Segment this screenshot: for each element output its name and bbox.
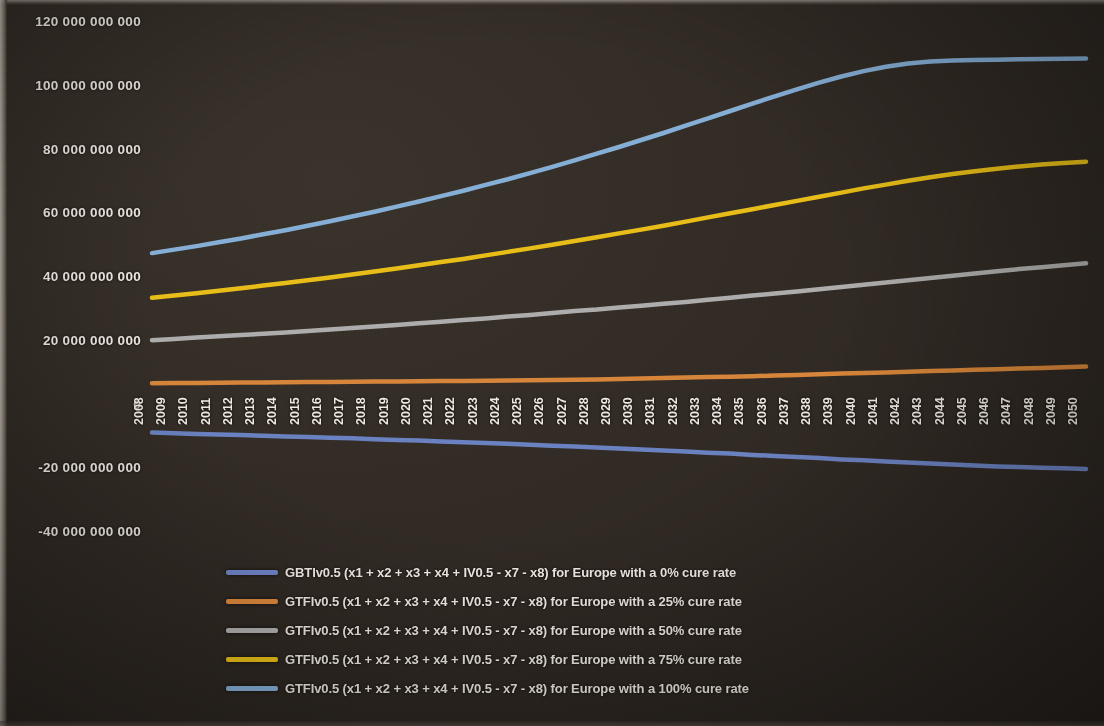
x-axis-tick-label: 2024 — [488, 397, 502, 425]
x-axis-tick-label: 2010 — [176, 397, 190, 425]
y-axis-tick-label: 120 000 000 000 — [35, 14, 141, 29]
legend-item-label: GTFIv0.5 (x1 + x2 + x3 + x4 + IV0.5 - x7… — [285, 623, 742, 638]
x-axis-tick-label: 2016 — [310, 397, 324, 425]
x-axis-tick-label: 2025 — [510, 397, 524, 425]
x-axis-tick-label: 2026 — [532, 397, 546, 425]
chart-series-line — [152, 58, 1086, 253]
chart-photo-backdrop: 120 000 000 000100 000 000 00080 000 000… — [0, 0, 1104, 726]
y-axis-tick-label: 40 000 000 000 — [43, 269, 141, 284]
x-axis-tick-label: 2027 — [555, 397, 569, 425]
legend-color-swatch — [226, 599, 278, 604]
chart-series-line — [152, 263, 1086, 340]
x-axis-tick-label: 2041 — [866, 397, 880, 425]
x-axis-tick-label: 2013 — [243, 397, 257, 425]
x-axis-tick-label: 2032 — [666, 397, 680, 425]
x-axis-tick-label: 2012 — [221, 397, 235, 425]
legend-item[interactable]: GTFIv0.5 (x1 + x2 + x3 + x4 + IV0.5 - x7… — [226, 587, 986, 616]
x-axis-tick-label: 2047 — [999, 397, 1013, 425]
x-axis-tick-label: 2009 — [154, 397, 168, 425]
x-axis-tick-label: 2048 — [1022, 397, 1036, 425]
x-axis-tick-label: 2040 — [844, 397, 858, 425]
chart-legend: GBTIv0.5 (x1 + x2 + x3 + x4 + IV0.5 - x7… — [226, 558, 986, 703]
x-axis-tick-label: 2019 — [377, 397, 391, 425]
x-axis-tick-label: 2015 — [288, 397, 302, 425]
legend-item[interactable]: GTFIv0.5 (x1 + x2 + x3 + x4 + IV0.5 - x7… — [226, 645, 986, 674]
x-axis-tick-label: 2036 — [755, 397, 769, 425]
x-axis-tick-label: 2023 — [466, 397, 480, 425]
chart-series-line — [152, 367, 1086, 384]
x-axis-tick-label: 2038 — [799, 397, 813, 425]
x-axis-tick-label: 2021 — [421, 397, 435, 425]
legend-item-label: GTFIv0.5 (x1 + x2 + x3 + x4 + IV0.5 - x7… — [285, 594, 742, 609]
y-axis-tick-label: 100 000 000 000 — [35, 78, 141, 93]
line-chart: 120 000 000 000100 000 000 00080 000 000… — [0, 0, 1104, 726]
legend-item-label: GTFIv0.5 (x1 + x2 + x3 + x4 + IV0.5 - x7… — [285, 681, 749, 696]
x-axis-tick-label: 2028 — [577, 397, 591, 425]
legend-color-swatch — [226, 628, 278, 633]
y-axis-tick-label: 20 000 000 000 — [43, 333, 141, 348]
legend-color-swatch — [226, 686, 278, 691]
y-axis-tick-label: -40 000 000 000 — [38, 524, 141, 539]
x-axis-tick-label: 2043 — [910, 397, 924, 425]
legend-item-label: GTFIv0.5 (x1 + x2 + x3 + x4 + IV0.5 - x7… — [285, 652, 742, 667]
x-axis-tick-label: 2046 — [977, 397, 991, 425]
x-axis-tick-label: 2050 — [1066, 397, 1080, 425]
legend-color-swatch — [226, 657, 278, 662]
legend-item[interactable]: GTFIv0.5 (x1 + x2 + x3 + x4 + IV0.5 - x7… — [226, 616, 986, 645]
x-axis-tick-label: 2014 — [265, 397, 279, 425]
x-axis-tick-label: 2037 — [777, 397, 791, 425]
x-axis-tick-label: 2045 — [955, 397, 969, 425]
legend-item[interactable]: GTFIv0.5 (x1 + x2 + x3 + x4 + IV0.5 - x7… — [226, 674, 986, 703]
x-axis-tick-label: 2042 — [888, 397, 902, 425]
x-axis-tick-label: 2031 — [643, 397, 657, 425]
x-axis-tick-label: 2033 — [688, 397, 702, 425]
x-axis-tick-label: 2018 — [354, 397, 368, 425]
chart-series-line — [152, 433, 1086, 469]
x-axis-tick-label: 2017 — [332, 397, 346, 425]
x-axis-tick-label: 2029 — [599, 397, 613, 425]
x-axis-tick-label: 2034 — [710, 397, 724, 425]
legend-item[interactable]: GBTIv0.5 (x1 + x2 + x3 + x4 + IV0.5 - x7… — [226, 558, 986, 587]
y-axis-tick-label: 60 000 000 000 — [43, 205, 141, 220]
y-axis-tick-label: -20 000 000 000 — [38, 460, 141, 475]
legend-color-swatch — [226, 570, 278, 575]
x-axis-tick-label: 2035 — [732, 397, 746, 425]
x-axis-tick-label: 2044 — [933, 397, 947, 425]
y-axis-tick-label: 80 000 000 000 — [43, 142, 141, 157]
x-axis-tick-label: 2008 — [132, 397, 146, 425]
x-axis-tick-label: 2011 — [199, 397, 213, 424]
x-axis-tick-label: 2030 — [621, 397, 635, 425]
x-axis-tick-label: 2049 — [1044, 397, 1058, 425]
x-axis-tick-label: 2039 — [821, 397, 835, 425]
x-axis-tick-label: 2022 — [443, 397, 457, 425]
x-axis-tick-label: 2020 — [399, 397, 413, 425]
legend-item-label: GBTIv0.5 (x1 + x2 + x3 + x4 + IV0.5 - x7… — [285, 565, 736, 580]
